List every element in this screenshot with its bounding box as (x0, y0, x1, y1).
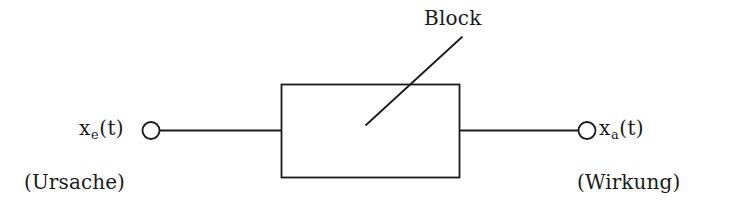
output-terminal-circle (579, 122, 596, 139)
block-rectangle (282, 85, 460, 178)
input-annotation-label: (Ursache) (24, 170, 125, 194)
input-signal-label: xe(t) (79, 116, 124, 142)
input-terminal-circle (143, 122, 160, 139)
input-signal-variable: x (79, 116, 91, 140)
output-signal-variable: x (599, 116, 611, 140)
input-signal-argument: (t) (99, 116, 124, 140)
block-leader-line (366, 37, 462, 125)
output-signal-label: xa(t) (599, 116, 644, 142)
output-signal-argument: (t) (619, 116, 644, 140)
input-signal-subscript: e (91, 127, 100, 142)
block-diagram-figure: Block xe(t) xa(t) (Ursache) (Wirkung) (0, 0, 736, 218)
block-callout-label: Block (424, 6, 481, 30)
output-annotation-label: (Wirkung) (577, 170, 680, 194)
